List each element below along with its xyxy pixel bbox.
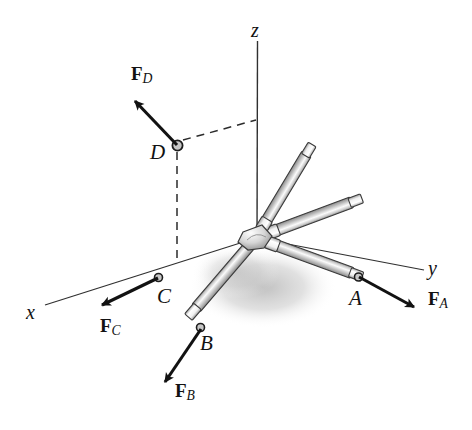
force-vector-fd [135,101,177,145]
force-symbol-fc: F [100,315,112,336]
force-label-fd: FD [131,64,152,86]
force-vector-fc [102,278,158,305]
mechanics-diagram-figure: x y z A B C D FA FB FC FD [0,0,472,430]
d-to-z-axis-dashed [183,120,256,140]
point-label-b: B [200,333,213,354]
z-axis-line [257,41,258,241]
point-label-a: A [349,288,362,309]
point-label-d: D [150,142,165,163]
force-symbol-fb: F [175,380,187,401]
axis-label-y: y [428,258,437,278]
force-vector-fa [359,277,414,307]
force-label-fb: FB [175,381,195,403]
axis-label-z: z [251,20,259,40]
force-subscript-fb: B [187,388,195,403]
point-label-c: C [157,286,171,307]
force-subscript-fd: D [143,71,153,86]
diagram-canvas [0,0,472,430]
force-symbol-fd: F [131,63,143,84]
force-subscript-fc: C [112,323,121,338]
force-label-fa: FA [428,289,448,311]
force-subscript-fa: A [440,296,448,311]
force-vector-fb [165,329,201,382]
force-label-fc: FC [100,316,121,338]
force-symbol-fa: F [428,288,440,309]
axis-label-x: x [26,302,35,322]
